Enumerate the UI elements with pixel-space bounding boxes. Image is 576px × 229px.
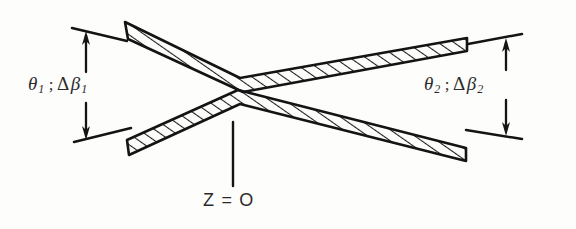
diagram-canvas <box>0 0 576 229</box>
right-upper-tick <box>468 34 522 44</box>
upper-beam-band <box>100 5 500 115</box>
delta2-symbol: Δ <box>453 73 467 94</box>
beta2-symbol: β <box>467 73 477 94</box>
upper-band-hatching <box>100 5 500 115</box>
left-angle-label: θ1;Δβ1 <box>28 73 88 97</box>
beta1-subscript: 1 <box>81 82 88 96</box>
theta1-subscript: 1 <box>38 82 45 96</box>
right-angle-label: θ2;Δβ2 <box>424 73 484 97</box>
right-lower-tick <box>466 130 522 139</box>
left-lower-tick <box>74 128 131 142</box>
beam-crossing-diagram: θ1;Δβ1 θ2;Δβ2 Z = O <box>0 0 576 229</box>
theta2-subscript: 2 <box>434 82 441 96</box>
left-upper-tick <box>72 28 127 41</box>
beta1-symbol: β <box>71 73 81 94</box>
left-separator: ; <box>45 75 57 94</box>
theta1-symbol: θ <box>28 73 38 94</box>
origin-label: Z = O <box>203 190 255 211</box>
delta1-symbol: Δ <box>57 73 71 94</box>
beta2-subscript: 2 <box>477 82 484 96</box>
theta2-symbol: θ <box>424 73 434 94</box>
right-separator: ; <box>441 75 453 94</box>
